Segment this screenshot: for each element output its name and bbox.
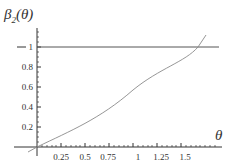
x-axis-label: θ xyxy=(215,127,223,143)
y-tick-label: 0.6 xyxy=(22,82,34,92)
x-tick-label: 0.75 xyxy=(100,152,116,162)
chart: 0.2 0.4 0.6 0.8 1 0.25 0.5 0.75 1 1.25 1… xyxy=(0,0,234,168)
y-major-ticks xyxy=(37,47,41,127)
y-tick-label: 0.4 xyxy=(22,102,34,112)
x-major-ticks xyxy=(61,143,181,147)
x-tick-label: 0.5 xyxy=(79,152,91,162)
y-tick-label: 1 xyxy=(29,42,34,52)
x-tick-label: 0.25 xyxy=(53,152,69,162)
y-tick-label: 0.2 xyxy=(22,122,33,132)
x-tick-label: 1 xyxy=(136,152,141,162)
y-axis-label: β2(θ) xyxy=(3,6,33,25)
x-tick-label: 1.25 xyxy=(153,152,169,162)
y-tick-label: 0.8 xyxy=(22,62,34,72)
x-tick-label: 1.5 xyxy=(179,152,191,162)
beta2-curve xyxy=(28,35,206,152)
